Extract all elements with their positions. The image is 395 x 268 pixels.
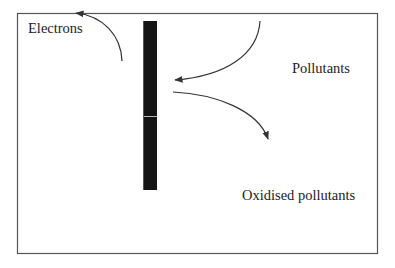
oxidised-pollutants-arrow [173,92,268,139]
frame [18,14,378,254]
electrochemical-oxidation-diagram: Electrons Pollutants Oxidised pollutants [0,0,395,268]
pollutants-arrow [175,21,260,80]
pollutants-label: Pollutants [292,60,350,76]
electrode [143,21,157,190]
electrode-bar [143,21,157,190]
electrons-label: Electrons [28,20,83,36]
electrons-arrow [76,13,122,61]
oxidised-pollutants-label: Oxidised pollutants [242,187,356,203]
electrode-bar-edge [143,21,144,190]
